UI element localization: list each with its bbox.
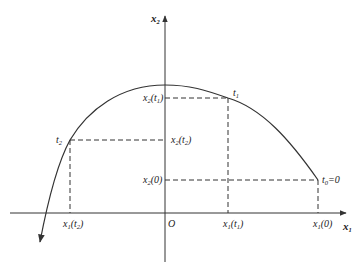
phase-trajectory-diagram: x2 x1 O t1 t2 t0=0 x2(t1) x2(t2) x2(0) x… xyxy=(0,0,359,269)
y-tick-x2-t1: x2(t1) xyxy=(142,92,164,104)
point-t1-label: t1 xyxy=(233,87,239,99)
x-tick-x1-0: x1(0) xyxy=(312,218,333,230)
point-t2-label: t2 xyxy=(56,134,63,146)
y-tick-x2-t2: x2(t2) xyxy=(170,134,192,146)
projection-lines xyxy=(70,98,318,213)
y-axis-label: x2 xyxy=(150,12,161,25)
origin-label: O xyxy=(168,218,175,229)
x-tick-x1-t1: x1(t1) xyxy=(222,218,244,230)
point-t0-label: t0=0 xyxy=(322,174,340,186)
x-axis-label: x1 xyxy=(342,220,352,233)
x-tick-x1-t2: x1(t2) xyxy=(62,218,84,230)
y-tick-x2-0: x2(0) xyxy=(142,174,163,186)
